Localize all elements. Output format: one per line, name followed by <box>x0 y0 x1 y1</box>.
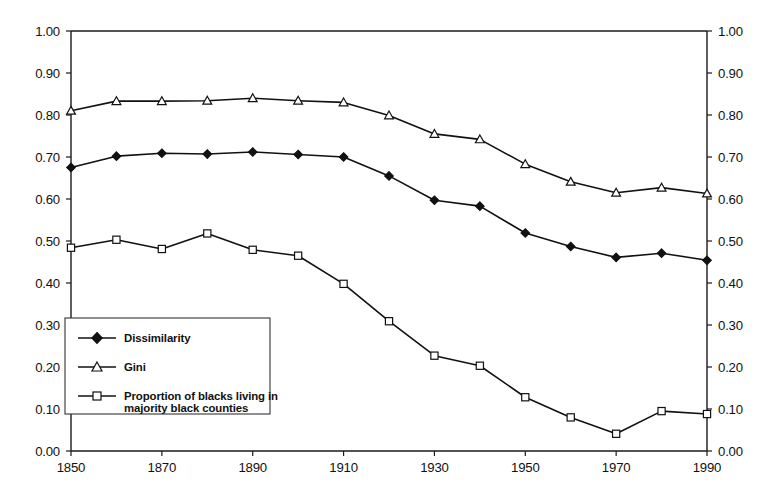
data-point-diamond <box>430 196 439 205</box>
right-axis-ticks: 0.000.100.200.300.400.500.600.700.800.90… <box>707 24 743 459</box>
legend-label-proportion-line2: majority black counties <box>124 402 248 414</box>
data-point-square <box>113 236 120 243</box>
left-tick-label: 0.70 <box>35 150 60 165</box>
x-tick-label: 1950 <box>511 460 540 475</box>
left-tick-label: 0.20 <box>35 360 60 375</box>
data-point-square <box>385 318 392 325</box>
data-point-diamond <box>203 150 212 159</box>
data-point-diamond <box>385 172 394 181</box>
data-point-diamond <box>294 150 303 159</box>
legend-label-gini: Gini <box>124 361 146 373</box>
left-tick-label: 0.40 <box>35 276 60 291</box>
data-point-diamond <box>521 229 530 238</box>
right-tick-label: 0.30 <box>718 318 743 333</box>
chart-legend: Dissimilarity Gini Proportion of blacks … <box>65 318 278 414</box>
data-point-square <box>476 362 483 369</box>
data-point-triangle <box>521 160 530 168</box>
series-line <box>71 152 707 260</box>
chart-container: 0.000.100.200.300.400.500.600.700.800.90… <box>0 0 763 487</box>
right-tick-label: 0.00 <box>718 444 743 459</box>
data-point-square <box>703 410 710 417</box>
data-point-diamond <box>339 153 348 162</box>
left-tick-label: 0.50 <box>35 234 60 249</box>
legend-label-dissimilarity: Dissimilarity <box>124 332 191 344</box>
right-tick-label: 0.10 <box>718 402 743 417</box>
left-tick-label: 0.60 <box>35 192 60 207</box>
line-chart: 0.000.100.200.300.400.500.600.700.800.90… <box>0 0 763 487</box>
left-tick-label: 1.00 <box>35 24 60 39</box>
right-tick-label: 0.50 <box>718 234 743 249</box>
data-point-square <box>249 246 256 253</box>
data-point-square <box>340 280 347 287</box>
data-point-diamond <box>476 202 485 211</box>
data-point-diamond <box>67 163 76 172</box>
x-tick-label: 1890 <box>238 460 267 475</box>
data-point-square <box>567 414 574 421</box>
data-point-triangle <box>657 183 666 191</box>
data-point-diamond <box>703 256 712 265</box>
left-tick-label: 0.90 <box>35 66 60 81</box>
data-point-diamond <box>158 149 167 158</box>
left-tick-label: 0.00 <box>35 444 60 459</box>
data-point-square <box>204 230 211 237</box>
left-tick-label: 0.80 <box>35 108 60 123</box>
right-tick-label: 0.80 <box>718 108 743 123</box>
data-point-diamond <box>112 152 121 161</box>
data-point-square <box>431 352 438 359</box>
data-point-diamond <box>566 242 575 251</box>
x-tick-label: 1910 <box>329 460 358 475</box>
x-tick-label: 1970 <box>602 460 631 475</box>
x-tick-label: 1990 <box>693 460 722 475</box>
right-tick-label: 1.00 <box>718 24 743 39</box>
open-square-icon <box>93 392 101 400</box>
x-tick-label: 1870 <box>148 460 177 475</box>
data-point-square <box>295 252 302 259</box>
x-tick-label: 1850 <box>57 460 86 475</box>
data-point-square <box>67 244 74 251</box>
data-point-diamond <box>248 148 257 157</box>
data-point-square <box>158 245 165 252</box>
right-tick-label: 0.20 <box>718 360 743 375</box>
data-point-diamond <box>612 253 621 262</box>
data-point-square <box>522 394 529 401</box>
data-point-square <box>613 430 620 437</box>
data-point-square <box>658 408 665 415</box>
left-tick-label: 0.10 <box>35 402 60 417</box>
right-tick-label: 0.90 <box>718 66 743 81</box>
right-tick-label: 0.40 <box>718 276 743 291</box>
x-axis-ticks: 18501870189019101930195019701990 <box>57 451 722 475</box>
series-gini <box>67 94 712 197</box>
data-point-diamond <box>657 249 666 258</box>
right-tick-label: 0.70 <box>718 150 743 165</box>
left-tick-label: 0.30 <box>35 318 60 333</box>
legend-label-proportion-line1: Proportion of blacks living in <box>124 390 278 402</box>
x-tick-label: 1930 <box>420 460 449 475</box>
right-tick-label: 0.60 <box>718 192 743 207</box>
